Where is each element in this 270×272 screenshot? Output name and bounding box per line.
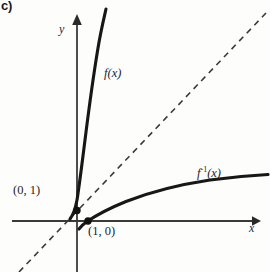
curve-exponential-f [70,9,106,219]
identity-line-dashed [19,13,266,272]
point-label-1-0: (1, 0) [88,224,115,239]
figure-panel: c) y x f(x) f-1(x) (0, 1) (1, 0) [0,0,270,272]
plot-canvas [0,0,270,272]
point-marker-0-1 [73,207,80,214]
x-axis-label: x [249,221,254,236]
curve-label-f: f(x) [104,66,121,81]
f-inverse-argument: (x) [207,166,221,180]
y-axis-arrowhead [72,14,82,25]
point-label-0-1: (0, 1) [13,183,40,198]
y-axis-label: y [59,22,64,37]
curve-label-f-inverse: f-1(x) [197,165,221,181]
